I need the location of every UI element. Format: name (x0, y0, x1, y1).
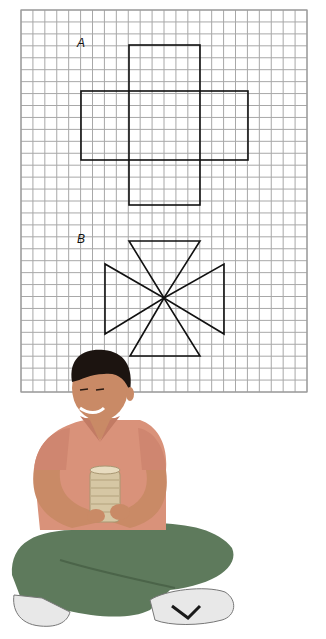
shape-label-b: B (77, 232, 85, 246)
geometry-figure: A B (0, 0, 326, 639)
shape-label-a: A (77, 36, 85, 50)
net-b-triangle (164, 264, 224, 334)
left-sleeve (34, 428, 70, 470)
right-hand (110, 504, 130, 520)
ear (126, 387, 134, 401)
right-shoe (150, 589, 234, 625)
net-b-triangle (105, 264, 164, 334)
container-top (90, 466, 120, 474)
figure-canvas (0, 0, 326, 639)
graph-paper-grid (21, 10, 307, 392)
left-hand (87, 509, 105, 523)
